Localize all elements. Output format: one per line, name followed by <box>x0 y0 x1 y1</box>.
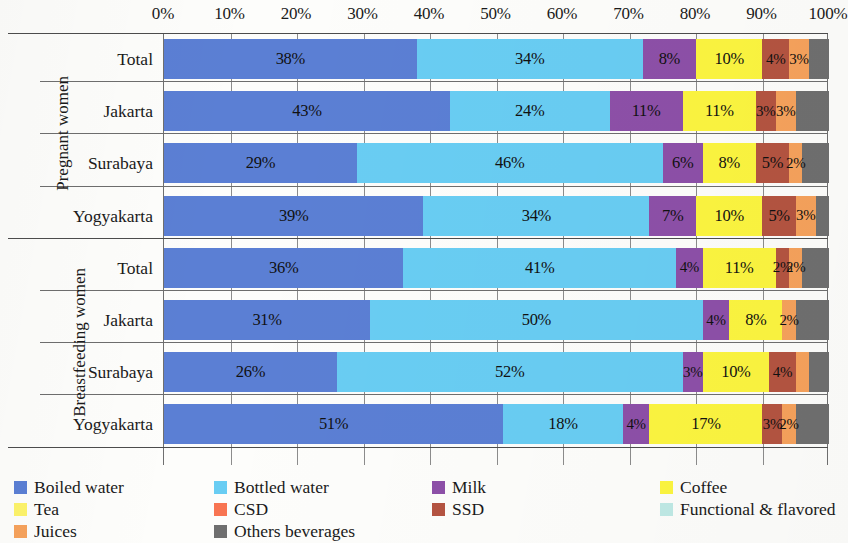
legend-label: Functional & flavored <box>680 499 836 520</box>
bar-segment-value-label: 43% <box>292 101 321 121</box>
bar-segment: 51% <box>164 404 503 444</box>
bar-segment: 2% <box>782 404 795 444</box>
legend-item[interactable]: Juices <box>14 520 77 542</box>
bar-segment: 52% <box>337 352 683 392</box>
bar-segment-value-label: 11% <box>725 258 754 278</box>
bar-segment: 17% <box>649 404 762 444</box>
bar-row: 29%46%6%8%5%2% <box>164 143 829 183</box>
bar-segment: 4% <box>762 39 789 79</box>
legend-swatch-icon <box>660 481 673 494</box>
bar-segment: 5% <box>762 196 795 236</box>
bar-segment-value-label: 3% <box>683 364 702 381</box>
legend-item[interactable]: Milk <box>432 476 486 498</box>
bar-segment-value-label: 18% <box>548 414 577 434</box>
legend-item[interactable]: Tea <box>14 498 59 520</box>
bar-segment: 4% <box>769 352 796 392</box>
x-axis-tick-label: 80% <box>667 4 723 24</box>
legend-swatch-icon <box>214 481 227 494</box>
bar-segment: 2% <box>789 143 802 183</box>
y-axis-group-label: Breastfeeding women <box>6 242 36 443</box>
legend-label: Juices <box>34 521 77 542</box>
bar-segment-value-label: 29% <box>246 153 275 173</box>
bar-segment: 4% <box>703 300 730 340</box>
legend-item[interactable]: Coffee <box>660 476 727 498</box>
legend-item[interactable]: CSD <box>214 498 268 520</box>
legend-label: Coffee <box>680 477 727 498</box>
bar-segment <box>796 352 809 392</box>
bar-segment <box>796 91 829 131</box>
legend-swatch-icon <box>214 525 227 538</box>
bar-segment: 2% <box>782 300 795 340</box>
bar-segment-value-label: 10% <box>721 362 750 382</box>
bar-segment-value-label: 2% <box>786 259 805 276</box>
bar-segment-value-label: 5% <box>762 153 783 173</box>
bar-row: 43%24%11%11%3%3% <box>164 91 829 131</box>
bar-segment: 10% <box>696 39 763 79</box>
bar-segment <box>802 248 829 288</box>
group-separator-rule <box>8 447 828 448</box>
bar-segment-value-label: 3% <box>796 207 815 224</box>
legend-label: Others beverages <box>234 521 355 542</box>
bar-segment: 46% <box>357 143 663 183</box>
x-axis-tick-label: 90% <box>734 4 790 24</box>
bar-segment-value-label: 46% <box>495 153 524 173</box>
bar-segment-value-label: 17% <box>691 414 720 434</box>
bar-segment: 10% <box>703 352 770 392</box>
legend-swatch-icon <box>14 525 27 538</box>
bar-segment-value-label: 11% <box>632 101 661 121</box>
bar-row: 26%52%3%10%4% <box>164 352 829 392</box>
legend-swatch-icon <box>432 503 445 516</box>
bar-segment: 36% <box>164 248 403 288</box>
group-separator-rule <box>8 33 828 34</box>
bar-segment-value-label: 4% <box>773 364 792 381</box>
legend-item[interactable]: Bottled water <box>214 476 329 498</box>
legend-swatch-icon <box>660 503 673 516</box>
x-axis-tick-label: 50% <box>468 4 524 24</box>
legend-item[interactable]: Boiled water <box>14 476 124 498</box>
bar-segment-value-label: 38% <box>276 49 305 69</box>
legend-item[interactable]: Functional & flavored <box>660 498 836 520</box>
legend-swatch-icon <box>14 481 27 494</box>
bar-segment: 4% <box>676 248 703 288</box>
y-axis-group-label-text: Pregnant women <box>0 76 164 191</box>
plot-area: 38%34%8%10%4%3%43%24%11%11%3%3%29%46%6%8… <box>163 33 828 465</box>
bar-segment: 8% <box>703 143 756 183</box>
bar-segment: 26% <box>164 352 337 392</box>
bar-segment: 29% <box>164 143 357 183</box>
bar-segment: 2% <box>789 248 802 288</box>
y-axis-category-label: Total <box>117 39 153 79</box>
bar-segment <box>809 39 829 79</box>
legend-item[interactable]: SSD <box>432 498 484 520</box>
bar-segment-value-label: 34% <box>522 206 551 226</box>
bar-segment: 18% <box>503 404 623 444</box>
bar-segment-value-label: 8% <box>745 310 766 330</box>
bar-segment-value-label: 34% <box>515 49 544 69</box>
legend-item[interactable]: Others beverages <box>214 520 355 542</box>
bar-segment: 11% <box>610 91 683 131</box>
bar-row: 31%50%4%8%2% <box>164 300 829 340</box>
chart-legend: Boiled waterBottled waterMilkCoffeeTeaCS… <box>0 472 848 543</box>
bar-segment <box>809 352 829 392</box>
bar-segment: 41% <box>403 248 676 288</box>
bar-segment-value-label: 5% <box>768 206 789 226</box>
bar-segment-value-label: 8% <box>659 49 680 69</box>
bar-segment-value-label: 4% <box>626 416 645 433</box>
legend-label: Bottled water <box>234 477 329 498</box>
legend-label: SSD <box>452 499 484 520</box>
bar-row: 39%34%7%10%5%3% <box>164 196 829 236</box>
bar-segment: 8% <box>643 39 696 79</box>
bar-segment-value-label: 24% <box>515 101 544 121</box>
bar-row: 36%41%4%11%2%2% <box>164 248 829 288</box>
bar-segment-value-label: 31% <box>252 310 281 330</box>
bar-segment: 6% <box>663 143 703 183</box>
bar-segment: 39% <box>164 196 423 236</box>
x-axis: 0%10%20%30%40%50%60%70%80%90%100% <box>0 0 848 30</box>
x-axis-tick-label: 30% <box>335 4 391 24</box>
bar-segment-value-label: 7% <box>662 206 683 226</box>
bar-segment-value-label: 4% <box>680 259 699 276</box>
bar-segment: 11% <box>683 91 756 131</box>
bar-segment-value-label: 41% <box>525 258 554 278</box>
bar-segment: 10% <box>696 196 763 236</box>
x-axis-tick-label: 20% <box>268 4 324 24</box>
y-axis-group-label-text: Breastfeeding women <box>0 268 181 417</box>
